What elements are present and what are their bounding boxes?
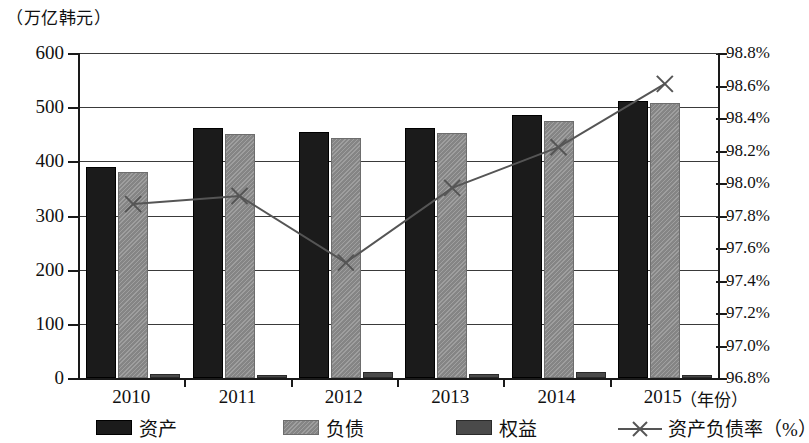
x-axis-tick-label: 2010 [112,386,150,408]
right-axis-tick-label: 97.6% [726,239,784,256]
legend-item[interactable]: 权益 [456,414,537,441]
bar-asset [512,115,542,378]
bar-asset [299,132,329,378]
bar-liability [650,103,680,378]
bar-liability [225,134,255,378]
ratio-marker-x: 2015: 98.61% [657,76,673,92]
right-axis-tick-label: 97.8% [726,207,784,224]
x-axis-tick-label: 2012 [325,386,363,408]
left-axis-tick-label: 500 [10,97,64,116]
left-axis-tick-label: 600 [10,43,64,62]
bar-equity [150,374,180,378]
bar-swatch-equity-icon [456,420,492,435]
left-axis-tick-label: 100 [10,314,64,333]
x-axis-tick-mark [184,378,186,387]
x-axis-tick-label: 2015 [644,386,682,408]
legend-label: 负债 [326,414,364,441]
legend-label: 资产负债率（%） [668,414,809,441]
bar-equity [576,372,606,378]
legend-item[interactable]: 资产 [96,414,177,441]
legend-item[interactable]: 资产负债率（%） [618,414,809,441]
right-axis-tick-label: 98.2% [726,142,784,159]
left-axis-tick-label: 400 [10,151,64,170]
right-axis-tick-label: 98.4% [726,109,784,126]
bar-liability [437,133,467,378]
legend-label: 权益 [499,414,537,441]
x-axis-tick-label: 2011 [219,386,256,408]
bar-equity [363,372,393,378]
left-axis-tick-label: 200 [10,260,64,279]
bar-equity [469,374,499,378]
bar-liability [118,172,148,378]
right-axis-tick-label: 97.4% [726,272,784,289]
x-axis-tick-mark [610,378,612,387]
x-axis-tick-mark [397,378,399,387]
bar-swatch-asset-icon [96,420,132,435]
left-axis-tick-label: 300 [10,206,64,225]
right-axis-tick-label: 98.0% [726,174,784,191]
left-axis-tick-label: 0 [10,368,64,387]
bar-liability [331,138,361,379]
x-axis-tick-mark [503,378,505,387]
chart-legend: 资产负债权益资产负债率（%） [78,414,718,440]
gridline [80,53,718,54]
plot-area: 2010: 97.87%2011: 97.92%2012: 97.51%2013… [78,53,720,380]
bar-equity [682,375,712,378]
line-marker-x-icon [618,420,662,436]
bar-asset [193,128,223,378]
x-axis-tick-label: 2014 [538,386,576,408]
legend-item[interactable]: 负债 [283,414,364,441]
bar-asset [405,128,435,378]
bar-asset [86,167,116,378]
x-axis-tick-label: 2013 [431,386,469,408]
right-axis-tick-label: 98.8% [726,44,784,61]
x-axis-tick-mark [291,378,293,387]
bar-liability [544,121,574,378]
legend-label: 资产 [139,414,177,441]
bar-asset [618,101,648,378]
right-axis-tick-label: 97.0% [726,337,784,354]
right-axis-tick-label: 96.8% [726,369,784,386]
bar-equity [257,375,287,378]
bar-swatch-liability-icon [283,420,319,435]
right-axis-tick-label: 98.6% [726,77,784,94]
x-axis-unit-label: （年份） [680,386,748,411]
y-axis-unit-caption: （万亿韩元） [6,4,111,29]
right-axis-tick-label: 97.2% [726,304,784,321]
